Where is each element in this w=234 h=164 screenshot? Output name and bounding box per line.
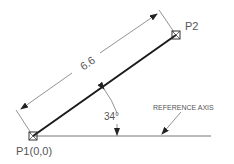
dimension-line-a	[21, 73, 72, 109]
extension-line-p2	[159, 10, 174, 32]
angle-arc	[104, 89, 117, 113]
p1-name: P1	[16, 145, 29, 157]
reference-axis-leader	[162, 112, 181, 134]
cad-diagram: P2 P1(0,0) 6.6 34° REFERENCE AXIS	[0, 0, 234, 164]
p2-label: P2	[185, 20, 198, 32]
angle-label: 34°	[104, 111, 119, 122]
dimension-line-b	[100, 14, 157, 53]
reference-axis-label: REFERENCE AXIS	[153, 104, 214, 111]
p1-coords: (0,0)	[29, 145, 52, 157]
p1-label: P1(0,0)	[16, 145, 52, 157]
dimension-label: 6.6	[78, 54, 97, 73]
p2-marker-icon	[172, 31, 180, 39]
extension-line-p1	[16, 110, 31, 133]
